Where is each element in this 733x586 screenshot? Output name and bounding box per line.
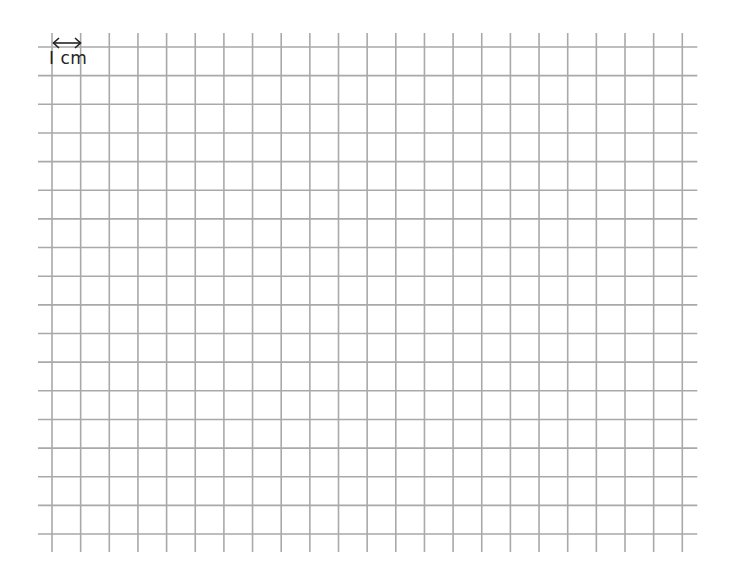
scale-label: I cm (49, 50, 87, 67)
graph-paper-grid (0, 0, 733, 586)
